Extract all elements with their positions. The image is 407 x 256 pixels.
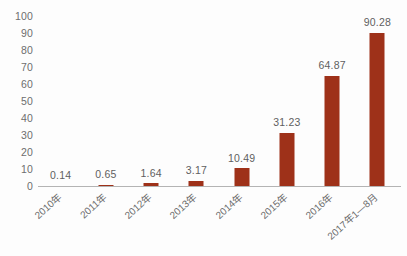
y-axis-tick-label: 80 [1, 45, 33, 56]
bar-value-label: 3.17 [186, 165, 207, 176]
x-axis: 2010年2011年2012年2013年2014年2015年2016年2017年… [38, 188, 400, 256]
bar-group: 90.28 [357, 16, 397, 186]
x-axis-tick-label: 2011年 [78, 192, 108, 221]
y-axis-tick-label: 40 [1, 113, 33, 124]
y-axis-tick-label: 100 [1, 11, 33, 22]
bar-value-label: 31.23 [273, 117, 300, 128]
bar [370, 33, 385, 186]
y-axis-tick-label: 0 [1, 181, 33, 192]
x-axis-baseline [38, 186, 401, 187]
bar-group: 0.65 [86, 16, 126, 186]
x-axis-tick-label: 2012年 [123, 192, 154, 221]
x-axis-tick-label: 2016年 [304, 192, 335, 221]
bar-group: 31.23 [267, 16, 307, 186]
bar [234, 168, 249, 186]
x-axis-tick-label: 2013年 [168, 192, 199, 221]
bar [279, 133, 294, 186]
y-axis-tick-label: 70 [1, 62, 33, 73]
x-axis-tick: 2014年 [222, 188, 262, 256]
y-axis-tick-label: 30 [1, 130, 33, 141]
bar [325, 76, 340, 186]
bar-value-label: 0.14 [50, 170, 71, 181]
plot-area: 0.140.651.643.1710.4931.2364.8790.28 [38, 16, 400, 186]
y-axis-tick-label: 50 [1, 96, 33, 107]
bar-group: 0.14 [41, 16, 81, 186]
x-axis-tick-label: 2010年 [33, 192, 64, 221]
y-axis: 1009080706050403020100 [0, 0, 36, 186]
y-axis-tick-label: 60 [1, 79, 33, 90]
x-axis-tick-label: 2014年 [214, 192, 245, 221]
y-axis-tick-label: 20 [1, 147, 33, 158]
y-axis-tick-label: 10 [1, 164, 33, 175]
bar-group: 64.87 [312, 16, 352, 186]
bar-group: 10.49 [222, 16, 262, 186]
bar-group: 3.17 [176, 16, 216, 186]
x-axis-tick: 2013年 [176, 188, 216, 256]
x-axis-tick: 2012年 [131, 188, 171, 256]
x-axis-tick: 2010年 [41, 188, 81, 256]
bar-value-label: 1.64 [141, 168, 162, 179]
bar-value-label: 0.65 [95, 169, 116, 180]
x-axis-tick: 2011年 [86, 188, 126, 256]
bar-value-label: 10.49 [228, 153, 255, 164]
bar-group: 1.64 [131, 16, 171, 186]
bar-value-label: 64.87 [318, 60, 345, 71]
x-axis-tick: 2017年1—8月 [357, 188, 397, 256]
bar-chart: 1009080706050403020100 0.140.651.643.171… [0, 0, 407, 256]
x-axis-tick: 2015年 [267, 188, 307, 256]
bar-value-label: 90.28 [364, 17, 391, 28]
x-axis-tick-label: 2015年 [259, 192, 290, 221]
y-axis-tick-label: 90 [1, 28, 33, 39]
